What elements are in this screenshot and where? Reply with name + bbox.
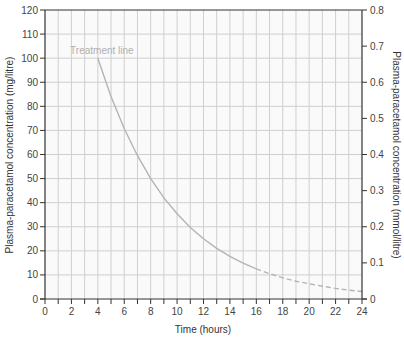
y-tick-label-right: 0 [370, 294, 376, 305]
x-tick-label: 18 [277, 306, 289, 317]
y-tick-label-right: 0.2 [370, 221, 384, 232]
y-tick-label-left: 90 [27, 77, 39, 88]
y-tick-label-left: 0 [32, 294, 38, 305]
y-axis-title-right: Plasma-paracetamol concentration (mmol/l… [391, 51, 402, 258]
y-tick-label-right: 0.5 [370, 113, 384, 124]
x-tick-label: 2 [69, 306, 75, 317]
x-tick-label: 24 [356, 306, 368, 317]
y-tick-label-right: 0.6 [370, 77, 384, 88]
x-tick-label: 14 [224, 306, 236, 317]
x-tick-label: 0 [42, 306, 48, 317]
x-tick-label: 20 [304, 306, 316, 317]
y-tick-label-right: 0.3 [370, 185, 384, 196]
x-tick-label: 16 [251, 306, 263, 317]
y-axis-title-left: Plasma-paracetamol concentration (mg/lit… [4, 57, 15, 254]
y-tick-label-right: 0.8 [370, 5, 384, 16]
x-tick-label: 8 [148, 306, 154, 317]
x-tick-label: 10 [172, 306, 184, 317]
x-tick-label: 12 [198, 306, 210, 317]
y-tick-label-left: 60 [27, 149, 39, 160]
y-tick-label-left: 40 [27, 197, 39, 208]
x-tick-label: 4 [95, 306, 101, 317]
y-tick-label-left: 30 [27, 221, 39, 232]
x-tick-label: 22 [330, 306, 342, 317]
y-tick-label-right: 0.7 [370, 41, 384, 52]
y-tick-label-left: 80 [27, 101, 39, 112]
y-tick-label-left: 20 [27, 245, 39, 256]
y-tick-label-right: 0.4 [370, 149, 384, 160]
y-tick-label-right: 0.1 [370, 257, 384, 268]
paracetamol-nomogram-chart: 0246810121416182022240102030405060708090… [0, 0, 404, 344]
x-axis-title: Time (hours) [175, 324, 231, 335]
y-tick-label-left: 50 [27, 173, 39, 184]
y-tick-label-left: 70 [27, 125, 39, 136]
x-tick-label: 6 [121, 306, 127, 317]
y-tick-label-left: 10 [27, 269, 39, 280]
y-tick-label-left: 100 [21, 53, 38, 64]
y-tick-label-left: 120 [21, 5, 38, 16]
treatment-line-label: Treatment line [70, 45, 134, 56]
y-tick-label-left: 110 [22, 29, 38, 40]
